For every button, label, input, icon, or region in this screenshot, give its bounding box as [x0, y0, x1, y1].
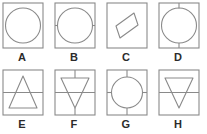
square-outline	[3, 3, 43, 48]
panel-d-figure	[156, 0, 207, 52]
panel-f-figure	[52, 67, 104, 119]
panel-b[interactable]: B	[52, 0, 104, 67]
panel-h-figure	[156, 67, 207, 119]
square-outline	[55, 3, 95, 48]
circle-shape	[58, 8, 93, 43]
panel-c-figure	[104, 0, 156, 52]
circle-shape	[6, 8, 41, 43]
panel-h-label: H	[156, 117, 200, 131]
panel-g[interactable]: G	[104, 67, 156, 134]
panel-e[interactable]: E	[0, 67, 52, 134]
square-outline	[159, 3, 199, 48]
panel-g-label: G	[104, 117, 148, 131]
panel-f-label: F	[52, 117, 96, 131]
panel-d-label: D	[156, 50, 200, 64]
panel-d[interactable]: D	[156, 0, 207, 67]
panel-a-label: A	[0, 50, 44, 64]
rhombus-shape	[116, 13, 138, 38]
square-outline	[107, 3, 147, 48]
panel-e-label: E	[0, 117, 44, 131]
panel-a[interactable]: A	[0, 0, 52, 67]
panel-e-figure	[0, 67, 52, 119]
figure-container: A B C D E	[0, 0, 207, 134]
panel-b-label: B	[52, 50, 96, 64]
panel-h[interactable]: H	[156, 67, 207, 134]
panel-c[interactable]: C	[104, 0, 156, 67]
panel-f[interactable]: F	[52, 67, 104, 134]
panel-b-figure	[52, 0, 104, 52]
panel-a-figure	[0, 0, 52, 52]
panel-c-label: C	[104, 50, 148, 64]
panel-g-figure	[104, 67, 156, 119]
circle-shape	[112, 77, 143, 108]
circle-shape	[162, 8, 197, 43]
